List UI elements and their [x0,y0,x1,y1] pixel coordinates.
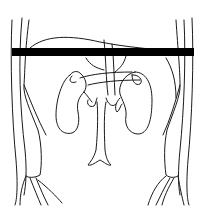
body-wall-left [11,18,62,205]
spine [87,98,116,165]
body-wall-right [148,18,193,205]
anatomy-line-drawing [0,0,205,217]
kidney-right [116,72,152,134]
horizontal-marker-bar [12,48,194,56]
anatomy-diagram [0,0,205,217]
kidney-left [56,72,92,134]
liver-outline [30,37,176,98]
